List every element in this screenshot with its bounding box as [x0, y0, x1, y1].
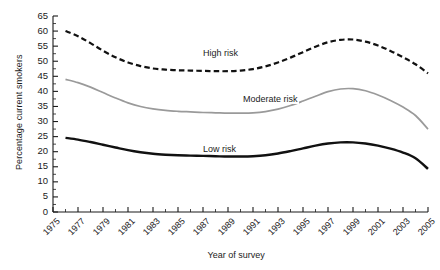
x-tick-marks [53, 207, 428, 212]
y-tick-label: 55 [22, 40, 48, 51]
series-line-high-risk [66, 31, 429, 73]
y-tick-label: 15 [22, 160, 48, 171]
y-tick-label: 30 [22, 115, 48, 126]
y-tick-label: 10 [22, 175, 48, 186]
y-tick-label: 0 [22, 206, 48, 217]
y-tick-label: 50 [22, 55, 48, 66]
series-line-low-risk [66, 138, 429, 169]
series-line-moderate-risk [66, 79, 429, 129]
y-tick-label: 35 [22, 100, 48, 111]
y-tick-label: 60 [22, 25, 48, 36]
y-tick-label: 45 [22, 70, 48, 81]
y-tick-label: 20 [22, 145, 48, 156]
y-tick-label: 25 [22, 130, 48, 141]
chart-figure: Percentage current smokers Year of surve… [0, 0, 440, 270]
series-label-low-risk: Low risk [202, 144, 237, 154]
y-tick-label: 65 [22, 10, 48, 21]
y-tick-label: 5 [22, 190, 48, 201]
axes-group [53, 16, 428, 212]
y-tick-marks [53, 16, 58, 212]
y-tick-label: 40 [22, 85, 48, 96]
series-label-high-risk: High risk [202, 48, 239, 58]
series-label-moderate-risk: Moderate risk [242, 94, 299, 104]
x-axis-title: Year of survey [208, 250, 265, 260]
